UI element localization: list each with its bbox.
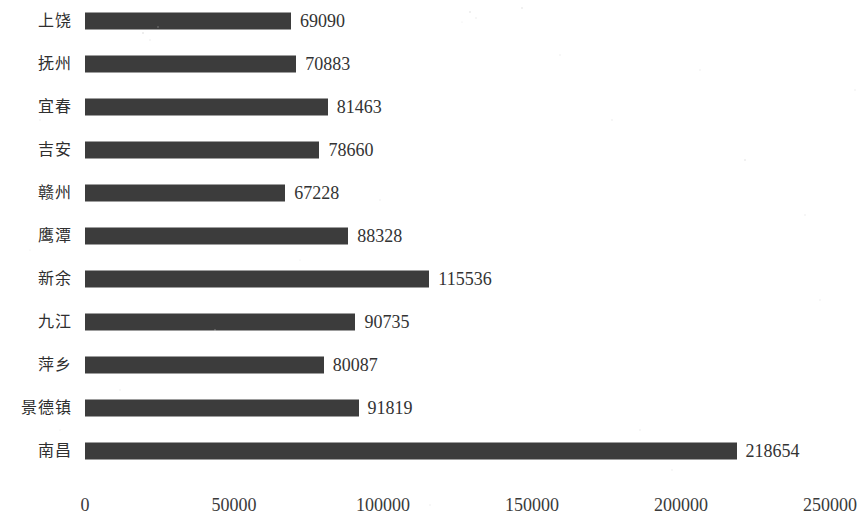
category-label: 赣州	[0, 185, 72, 201]
category-label: 抚州	[0, 56, 72, 72]
bar	[85, 12, 291, 29]
bar-row: 宜春81463	[0, 85, 866, 128]
bar	[85, 313, 355, 330]
category-label: 吉安	[0, 142, 72, 158]
bar	[85, 399, 359, 416]
bar	[85, 270, 429, 287]
bar-value-label: 80087	[333, 356, 378, 374]
bar	[85, 227, 348, 244]
x-axis-tick-label: 150000	[505, 496, 559, 514]
bar-value-label: 115536	[438, 270, 491, 288]
bar-value-label: 88328	[357, 227, 402, 245]
bar-and-value: 88328	[85, 227, 402, 244]
bar-row: 九江90735	[0, 300, 866, 343]
bar-value-label: 91819	[368, 399, 413, 417]
bar	[85, 184, 285, 201]
bar-and-value: 115536	[85, 270, 492, 287]
bar-and-value: 70883	[85, 55, 350, 72]
bar-and-value: 91819	[85, 399, 413, 416]
x-axis-tick-label: 250000	[803, 496, 857, 514]
bar-row: 上饶69090	[0, 0, 866, 42]
category-label: 九江	[0, 314, 72, 330]
bar-row: 新余115536	[0, 257, 866, 300]
bar-and-value: 69090	[85, 12, 345, 29]
bar-value-label: 90735	[364, 313, 409, 331]
bar-value-label: 218654	[746, 442, 800, 460]
bar-row: 鹰潭88328	[0, 214, 866, 257]
bar-and-value: 67228	[85, 184, 339, 201]
bar-row: 南昌218654	[0, 429, 866, 472]
bar-value-label: 70883	[305, 55, 350, 73]
x-axis-tick-label: 200000	[654, 496, 708, 514]
bar	[85, 442, 737, 459]
bar-row: 景德镇91819	[0, 386, 866, 429]
category-label: 萍乡	[0, 357, 72, 373]
bar-chart: 上饶69090抚州70883宜春81463吉安78660赣州67228鹰潭883…	[0, 0, 866, 522]
x-axis-tick-label: 100000	[356, 496, 410, 514]
category-label: 鹰潭	[0, 228, 72, 244]
category-label: 景德镇	[0, 400, 72, 416]
category-label: 宜春	[0, 99, 72, 115]
bar-value-label: 78660	[328, 141, 373, 159]
x-axis-tick-label: 50000	[212, 496, 257, 514]
bar-value-label: 67228	[294, 184, 339, 202]
bar-and-value: 78660	[85, 141, 373, 158]
bar-value-label: 69090	[300, 12, 345, 30]
bar-row: 吉安78660	[0, 128, 866, 171]
bar-and-value: 80087	[85, 356, 378, 373]
bar	[85, 356, 324, 373]
bar-row: 赣州67228	[0, 171, 866, 214]
bar-value-label: 81463	[337, 98, 382, 116]
x-axis-tick-label: 0	[81, 496, 90, 514]
category-label: 新余	[0, 271, 72, 287]
category-label: 上饶	[0, 13, 72, 29]
bar	[85, 55, 296, 72]
bar-and-value: 90735	[85, 313, 409, 330]
category-label: 南昌	[0, 443, 72, 459]
bar-and-value: 218654	[85, 442, 800, 459]
bar-row: 萍乡80087	[0, 343, 866, 386]
bar-and-value: 81463	[85, 98, 382, 115]
bar	[85, 98, 328, 115]
bar	[85, 141, 319, 158]
x-axis: 050000100000150000200000250000	[0, 480, 866, 522]
plot-area: 上饶69090抚州70883宜春81463吉安78660赣州67228鹰潭883…	[0, 0, 866, 480]
bar-row: 抚州70883	[0, 42, 866, 85]
